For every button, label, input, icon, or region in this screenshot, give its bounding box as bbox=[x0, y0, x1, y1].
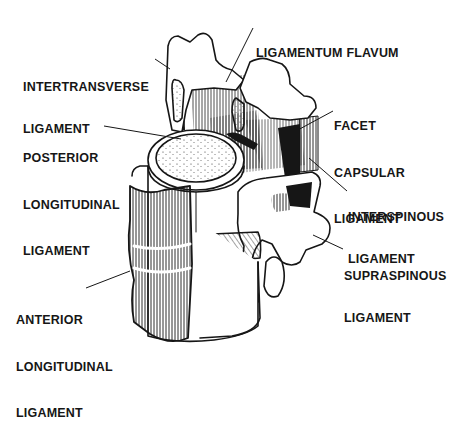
label-supraspinous-ligament: SUPRASPINOUS LIGAMENT bbox=[344, 241, 446, 353]
label-posterior-longitudinal-ligament: POSTERIOR LONGITUDINAL LIGAMENT bbox=[23, 120, 120, 291]
label-ligamentum-flavum: LIGAMENTUM FLAVUM bbox=[256, 18, 399, 88]
label-anterior-longitudinal-ligament: ANTERIOR LONGITUDINAL LIGAMENT bbox=[16, 282, 113, 421]
